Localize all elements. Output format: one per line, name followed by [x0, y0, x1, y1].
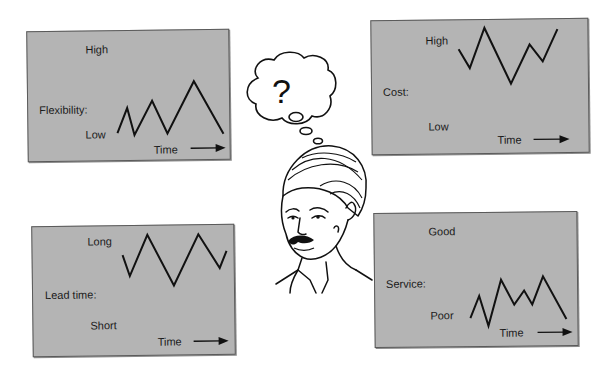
time-arrow-icon	[538, 328, 573, 336]
question-mark-icon: ?	[272, 72, 291, 110]
thinking-man-turban-icon: ?	[236, 48, 376, 293]
cost-line-chart	[371, 19, 588, 154]
thinking-man-illustration: ?	[236, 48, 376, 293]
lead-time-chart-panel: Long Lead time: Short Time	[31, 224, 236, 357]
lead-time-line-chart	[32, 225, 235, 356]
time-arrow-icon	[534, 135, 570, 143]
service-chart-panel: Good Service: Poor Time	[373, 211, 578, 348]
flexibility-chart-panel: High Flexibility: Low Time	[26, 29, 231, 162]
mustache	[288, 236, 314, 245]
thought-bubble	[247, 52, 336, 144]
time-arrow-icon	[194, 337, 229, 345]
flexibility-line-chart	[27, 30, 230, 161]
time-arrow-icon	[191, 144, 226, 152]
cost-chart-panel: High Cost: Low Time	[370, 18, 589, 155]
service-line-chart	[374, 212, 577, 347]
